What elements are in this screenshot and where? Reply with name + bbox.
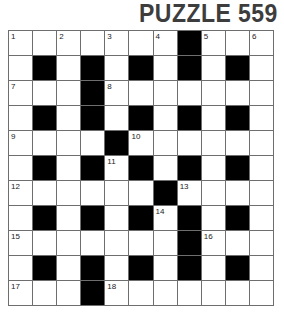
grid-cell[interactable] <box>129 31 153 56</box>
grid-cell[interactable] <box>9 156 33 181</box>
grid-cell[interactable]: 4 <box>154 31 178 56</box>
grid-cell[interactable] <box>250 106 274 131</box>
black-square <box>226 256 250 281</box>
black-square <box>33 156 57 181</box>
black-square <box>33 56 57 81</box>
grid-cell[interactable] <box>154 281 178 306</box>
black-square <box>178 156 202 181</box>
grid-cell[interactable] <box>202 81 226 106</box>
grid-cell[interactable]: 17 <box>9 281 33 306</box>
grid-cell[interactable] <box>57 231 81 256</box>
grid-cell[interactable] <box>9 256 33 281</box>
grid-cell[interactable] <box>9 206 33 231</box>
grid-cell[interactable]: 6 <box>250 31 274 56</box>
grid-cell[interactable] <box>154 81 178 106</box>
grid-cell[interactable] <box>57 131 81 156</box>
grid-cell[interactable] <box>57 156 81 181</box>
grid-cell[interactable]: 2 <box>57 31 81 56</box>
grid-cell[interactable]: 8 <box>105 81 129 106</box>
grid-cell[interactable] <box>226 181 250 206</box>
grid-cell[interactable] <box>202 181 226 206</box>
grid-cell[interactable] <box>154 231 178 256</box>
grid-cell[interactable] <box>226 231 250 256</box>
grid-cell[interactable] <box>250 156 274 181</box>
grid-cell[interactable]: 16 <box>202 231 226 256</box>
grid-cell[interactable] <box>250 256 274 281</box>
grid-cell[interactable]: 18 <box>105 281 129 306</box>
grid-cell[interactable]: 15 <box>9 231 33 256</box>
grid-cell[interactable] <box>202 206 226 231</box>
grid-cell[interactable] <box>9 56 33 81</box>
grid-cell[interactable] <box>178 281 202 306</box>
grid-cell[interactable] <box>105 56 129 81</box>
grid-cell[interactable] <box>81 181 105 206</box>
grid-cell[interactable]: 10 <box>129 131 153 156</box>
grid-cell[interactable] <box>57 56 81 81</box>
black-square <box>226 156 250 181</box>
grid-cell[interactable] <box>178 81 202 106</box>
grid-cell[interactable] <box>105 106 129 131</box>
grid-cell[interactable] <box>202 131 226 156</box>
grid-cell[interactable] <box>250 206 274 231</box>
grid-cell[interactable] <box>202 56 226 81</box>
grid-cell[interactable] <box>129 181 153 206</box>
grid-cell[interactable]: 5 <box>202 31 226 56</box>
grid-cell[interactable]: 9 <box>9 131 33 156</box>
grid-cell[interactable] <box>57 181 81 206</box>
grid-cell[interactable] <box>105 181 129 206</box>
grid-cell[interactable] <box>250 231 274 256</box>
grid-cell[interactable] <box>105 256 129 281</box>
grid-cell[interactable]: 3 <box>105 31 129 56</box>
grid-cell[interactable] <box>250 281 274 306</box>
grid-cell[interactable] <box>81 231 105 256</box>
grid-cell[interactable] <box>129 81 153 106</box>
grid-cell[interactable] <box>81 131 105 156</box>
grid-cell[interactable] <box>33 31 57 56</box>
grid-cell[interactable] <box>202 106 226 131</box>
grid-cell[interactable] <box>226 31 250 56</box>
grid-cell[interactable] <box>33 81 57 106</box>
grid-cell[interactable] <box>57 281 81 306</box>
grid-cell[interactable] <box>57 81 81 106</box>
grid-cell[interactable] <box>154 156 178 181</box>
grid-cell[interactable]: 14 <box>154 206 178 231</box>
grid-cell[interactable] <box>226 131 250 156</box>
grid-cell[interactable] <box>154 256 178 281</box>
grid-cell[interactable] <box>154 56 178 81</box>
black-square <box>226 56 250 81</box>
grid-cell[interactable] <box>202 256 226 281</box>
clue-number: 7 <box>11 82 15 91</box>
grid-cell[interactable] <box>154 106 178 131</box>
grid-cell[interactable] <box>81 31 105 56</box>
grid-cell[interactable] <box>129 281 153 306</box>
grid-cell[interactable] <box>9 106 33 131</box>
grid-cell[interactable]: 12 <box>9 181 33 206</box>
black-square <box>81 256 105 281</box>
grid-cell[interactable] <box>250 56 274 81</box>
grid-cell[interactable] <box>57 256 81 281</box>
grid-cell[interactable] <box>250 181 274 206</box>
grid-cell[interactable] <box>105 206 129 231</box>
grid-cell[interactable] <box>250 81 274 106</box>
grid-cell[interactable] <box>178 131 202 156</box>
grid-cell[interactable] <box>226 281 250 306</box>
grid-cell[interactable] <box>202 156 226 181</box>
grid-cell[interactable] <box>129 231 153 256</box>
grid-cell[interactable] <box>33 231 57 256</box>
grid-cell[interactable] <box>202 281 226 306</box>
grid-cell[interactable] <box>226 81 250 106</box>
grid-cell[interactable]: 1 <box>9 31 33 56</box>
grid-cell[interactable]: 11 <box>105 156 129 181</box>
grid-cell[interactable] <box>33 181 57 206</box>
grid-cell[interactable] <box>57 206 81 231</box>
grid-cell[interactable] <box>154 131 178 156</box>
grid-cell[interactable]: 13 <box>178 181 202 206</box>
crossword-grid: 123456789101112131415161718 <box>8 30 274 306</box>
grid-cell[interactable] <box>33 281 57 306</box>
grid-cell[interactable]: 7 <box>9 81 33 106</box>
black-square <box>105 131 129 156</box>
grid-cell[interactable] <box>33 131 57 156</box>
grid-cell[interactable] <box>57 106 81 131</box>
grid-cell[interactable] <box>250 131 274 156</box>
grid-cell[interactable] <box>105 231 129 256</box>
